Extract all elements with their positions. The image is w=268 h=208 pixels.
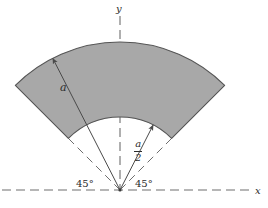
outer-radius-label: a <box>60 82 67 93</box>
geometry-figure: y x a a 2 45° 45° <box>0 0 268 208</box>
y-axis-label: y <box>116 4 122 14</box>
inner-radius-numerator: a <box>134 139 142 150</box>
inner-radius-denominator: 2 <box>134 153 142 164</box>
origin-vertex <box>118 188 121 191</box>
right-angle-label: 45° <box>135 179 153 189</box>
left-angle-label: 45° <box>76 179 94 189</box>
inner-radius-label: a 2 <box>134 139 142 163</box>
diagram-canvas <box>0 0 268 208</box>
x-axis-label: x <box>255 186 261 196</box>
